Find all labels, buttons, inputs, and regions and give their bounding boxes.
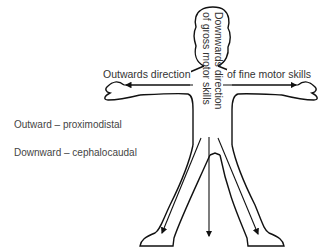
right-leg-arrow <box>218 138 258 234</box>
left-leg-outline <box>140 145 210 246</box>
downwards-direction-label: Downwards direction <box>214 12 225 109</box>
legend-outward-proximodistal: Outward – proximodistal <box>14 120 122 130</box>
gross-motor-skills-label: of gross motor skills <box>202 12 213 105</box>
body-diagram: Outwards direction of fine motor skills … <box>0 0 333 250</box>
outwards-direction-label: Outwards direction <box>103 69 191 80</box>
legend-downward-cephalocaudal: Downward – cephalocaudal <box>14 148 137 158</box>
fine-motor-skills-label: of fine motor skills <box>227 69 311 80</box>
right-leg-outline <box>220 145 284 246</box>
